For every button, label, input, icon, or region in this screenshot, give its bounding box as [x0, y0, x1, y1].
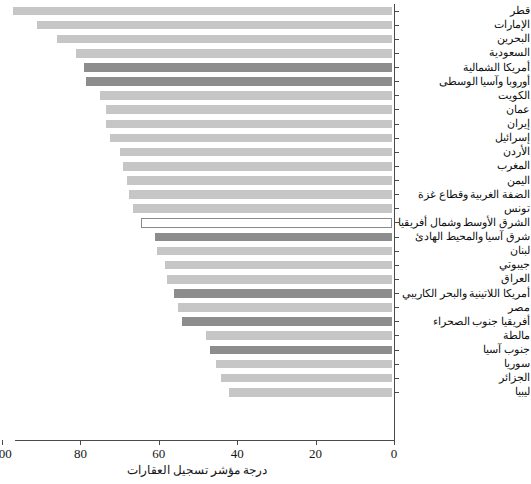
bar-region: [84, 63, 392, 72]
category-label: الجزائر: [402, 371, 530, 385]
bar-country: [133, 204, 392, 213]
bar-row: [0, 371, 394, 385]
bar-country: [129, 190, 392, 199]
bar-country: [120, 148, 392, 157]
x-tick-label: 0: [391, 446, 398, 461]
category-label: إسرائيل: [402, 131, 530, 145]
category-tick: [394, 287, 400, 301]
category-label: العراق: [402, 272, 530, 286]
bar-row: [0, 343, 394, 357]
category-tick: [394, 131, 400, 145]
category-label: مصر: [402, 301, 530, 315]
category-tick: [394, 46, 400, 60]
category-tick: [394, 75, 400, 89]
category-label: الكويت: [402, 89, 530, 103]
category-label: ليبيا: [402, 385, 530, 399]
category-tick: [394, 258, 400, 272]
bar-region: [182, 317, 392, 326]
bar-country: [206, 331, 392, 340]
bar-country: [178, 303, 392, 312]
category-tick: [394, 174, 400, 188]
bar-row: [0, 145, 394, 159]
category-label: أمريكا اللاتينية والبحر الكاريبي: [402, 287, 530, 301]
category-tick: [394, 329, 400, 343]
category-label: البحرين: [402, 32, 530, 46]
category-label: أفريقيا جنوب الصحراء: [402, 315, 530, 329]
bar-row: [0, 32, 394, 46]
bar-row: [0, 287, 394, 301]
bar-row: [0, 329, 394, 343]
registering-property-bar-chart: قطرالإماراتالبحرينالسعوديةأمريكا الشمالي…: [0, 0, 531, 484]
bar-row: [0, 103, 394, 117]
x-tick-label: 80: [74, 446, 87, 461]
bar-country: [37, 21, 392, 30]
x-tick: [237, 440, 238, 445]
category-tick: [394, 301, 400, 315]
category-label: اليمن: [402, 174, 530, 188]
x-tick: [316, 440, 317, 445]
x-axis-line: [15, 440, 394, 441]
category-tick: [394, 202, 400, 216]
category-label: الإمارات: [402, 18, 530, 32]
bar-row: [0, 202, 394, 216]
bar-row: [0, 89, 394, 103]
bar-country: [76, 49, 392, 58]
bar-country: [13, 7, 392, 16]
bar-row: [0, 357, 394, 371]
category-tick: [394, 371, 400, 385]
bar-country: [123, 162, 392, 171]
bar-country: [57, 35, 392, 44]
category-tick: [394, 385, 400, 399]
bar-row: [0, 61, 394, 75]
bar-region: [210, 346, 392, 355]
bar-country: [106, 105, 392, 114]
category-label: المغرب: [402, 159, 530, 173]
bar-row: [0, 301, 394, 315]
bar-rows: [0, 4, 394, 428]
category-label: عمان: [402, 103, 530, 117]
category-labels: قطرالإماراتالبحرينالسعوديةأمريكا الشمالي…: [402, 4, 530, 428]
category-tick: [394, 272, 400, 286]
bar-region: [174, 289, 392, 298]
category-tick: [394, 117, 400, 131]
category-label: أمريكا الشمالية: [402, 61, 530, 75]
bar-region: [155, 233, 392, 242]
category-label: الضفة الغربية وقطاع غزة: [402, 188, 530, 202]
category-label: أوروبا وآسيا الوسطى: [402, 75, 530, 89]
bar-row: [0, 75, 394, 89]
bar-country: [221, 374, 392, 383]
bar-country: [229, 388, 392, 397]
x-tick-label: 40: [231, 446, 244, 461]
bar-row: [0, 216, 394, 230]
category-label: جيبوتي: [402, 258, 530, 272]
category-label: لبنان: [402, 244, 530, 258]
bar-region: [86, 77, 392, 86]
x-tick: [394, 440, 395, 445]
category-tick: [394, 188, 400, 202]
x-tick: [2, 440, 3, 445]
x-tick-label: 60: [152, 446, 165, 461]
category-label: قطر: [402, 4, 530, 18]
category-label: جنوب آسيا: [402, 343, 530, 357]
bar-country: [216, 360, 392, 369]
bar-country: [100, 91, 392, 100]
category-tick: [394, 103, 400, 117]
bar-row: [0, 46, 394, 60]
bar-row: [0, 244, 394, 258]
category-label: إيران: [402, 117, 530, 131]
category-tick: [394, 61, 400, 75]
bar-row: [0, 159, 394, 173]
category-tick: [394, 357, 400, 371]
category-label: السعودية: [402, 46, 530, 60]
category-tick: [394, 4, 400, 18]
category-tick: [394, 230, 400, 244]
x-tick-label: 100: [0, 446, 12, 461]
bar-country: [110, 134, 392, 143]
bar-row: [0, 230, 394, 244]
bar-row: [0, 18, 394, 32]
bar-row: [0, 131, 394, 145]
bar-country: [167, 275, 392, 284]
x-tick-label: 20: [309, 446, 322, 461]
category-label: الأردن: [402, 145, 530, 159]
bar-highlight: [141, 218, 392, 228]
